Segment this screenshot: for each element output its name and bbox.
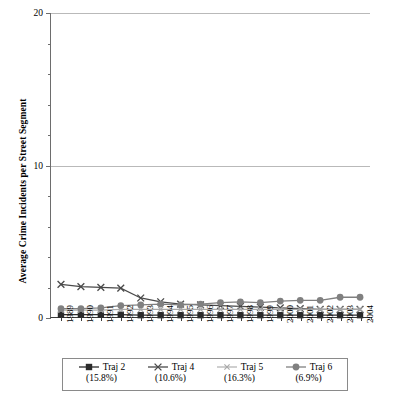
- legend-swatch-cross-x-icon: [147, 362, 169, 372]
- x-axis-label: 1989: [65, 305, 75, 323]
- x-axis-tick: [341, 317, 342, 321]
- x-axis-label: 2000: [285, 305, 295, 323]
- chart-legend: Traj 2(15.8%)Traj 4(10.6%)Traj 5(16.3%)T…: [62, 358, 348, 391]
- y-axis-minor-tick: [48, 44, 51, 45]
- y-axis-title: Average Crime Incidents per Street Segme…: [18, 61, 28, 321]
- legend-label: Traj 4: [172, 362, 195, 372]
- x-axis-label: 1995: [185, 305, 195, 323]
- data-point-filled-circle: [58, 305, 65, 312]
- data-point-filled-circle: [317, 297, 324, 304]
- data-point-filled-circle: [78, 305, 85, 312]
- legend-item-traj-5[interactable]: Traj 5(16.3%): [205, 362, 274, 383]
- data-point-filled-circle: [297, 297, 304, 304]
- x-axis-label: 1999: [265, 305, 275, 323]
- x-axis-tick: [221, 317, 222, 321]
- x-axis-tick: [121, 317, 122, 321]
- x-axis-label: 1998: [245, 305, 255, 323]
- data-point-filled-circle: [177, 301, 184, 308]
- legend-item-traj-2[interactable]: Traj 2(15.8%): [67, 362, 136, 383]
- x-axis-label: 2003: [345, 305, 355, 323]
- y-axis-label: 0: [38, 313, 43, 323]
- legend-item-traj-4[interactable]: Traj 4(10.6%): [136, 362, 205, 383]
- data-point-filled-circle: [157, 301, 164, 308]
- x-axis-tick: [261, 317, 262, 321]
- data-point-filled-circle: [292, 364, 299, 371]
- x-axis-label: 1996: [205, 305, 215, 323]
- data-point-filled-circle: [337, 294, 344, 301]
- chart-figure: Average Crime Incidents per Street Segme…: [0, 0, 408, 400]
- x-axis-tick: [161, 317, 162, 321]
- x-axis-tick: [81, 317, 82, 321]
- data-point-filled-circle: [277, 298, 284, 305]
- x-axis-label: 2001: [305, 305, 315, 323]
- x-axis-tick: [361, 317, 362, 321]
- data-point-filled-circle: [117, 302, 124, 309]
- gridline: [51, 13, 370, 14]
- legend-percent: (6.9%): [295, 373, 321, 383]
- y-axis-minor-tick: [48, 74, 51, 75]
- y-axis-minor-tick: [48, 196, 51, 197]
- legend-percent: (10.6%): [155, 373, 186, 383]
- legend-swatch-small-x-icon: [216, 362, 238, 372]
- x-axis-label: 1997: [225, 305, 235, 323]
- x-axis-label: 1991: [105, 305, 115, 323]
- x-axis-tick: [141, 317, 142, 321]
- y-axis-tick: [46, 166, 51, 167]
- x-axis-tick: [101, 317, 102, 321]
- y-axis-label: 20: [34, 8, 44, 18]
- data-point-filled-circle: [197, 301, 204, 308]
- gridline: [51, 166, 370, 167]
- legend-percent: (16.3%): [224, 373, 255, 383]
- y-axis-tick: [46, 13, 51, 14]
- y-axis-minor-tick: [48, 227, 51, 228]
- data-point-filled-circle: [97, 304, 104, 311]
- legend-label: Traj 6: [310, 362, 333, 372]
- y-axis-minor-tick: [48, 135, 51, 136]
- legend-label: Traj 2: [103, 362, 126, 372]
- x-axis-tick: [241, 317, 242, 321]
- data-point-filled-circle: [137, 301, 144, 308]
- y-axis-minor-tick: [48, 257, 51, 258]
- x-axis-label: 1993: [145, 305, 155, 323]
- data-point-filled-circle: [217, 299, 224, 306]
- data-point-filled-square: [85, 364, 91, 370]
- x-axis-tick: [181, 317, 182, 321]
- data-point-filled-circle: [237, 298, 244, 305]
- x-axis-tick: [301, 317, 302, 321]
- x-axis-label: 1994: [165, 305, 175, 323]
- x-axis-label: 1992: [125, 305, 135, 323]
- x-axis-label: 2004: [365, 305, 375, 323]
- legend-swatch-filled-square-icon: [78, 362, 100, 372]
- x-axis-label: 1990: [85, 305, 95, 323]
- x-axis-label: 2002: [325, 305, 335, 323]
- x-axis-tick: [61, 317, 62, 321]
- y-axis-tick: [46, 318, 51, 319]
- data-point-filled-circle: [357, 294, 364, 301]
- data-point-filled-circle: [257, 299, 264, 306]
- y-axis-label: 10: [34, 161, 44, 171]
- plot-area: 0102019891990199119921993199419951996199…: [50, 13, 370, 318]
- y-axis-minor-tick: [48, 288, 51, 289]
- x-axis-tick: [321, 317, 322, 321]
- x-axis-tick: [201, 317, 202, 321]
- legend-percent: (15.8%): [86, 373, 117, 383]
- legend-swatch-filled-circle-icon: [285, 362, 307, 372]
- legend-item-traj-6[interactable]: Traj 6(6.9%): [274, 362, 343, 383]
- x-axis-tick: [281, 317, 282, 321]
- y-axis-minor-tick: [48, 105, 51, 106]
- legend-label: Traj 5: [241, 362, 264, 372]
